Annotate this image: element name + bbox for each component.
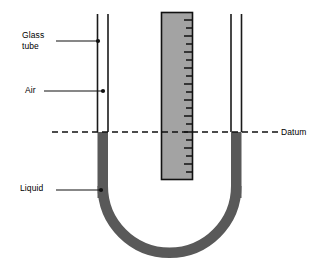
annotation-leaders [44, 39, 105, 192]
glass-tube-leader-dot [96, 39, 100, 43]
manometer-diagram-svg [0, 0, 319, 260]
liquid-u-bend [103, 186, 237, 253]
manometer-figure: Glass tube Air Liquid Datum [0, 0, 319, 260]
label-glass-tube: Glass tube [22, 30, 44, 51]
air-leader-dot [101, 89, 105, 93]
scale-body [162, 13, 193, 180]
label-datum: Datum [281, 127, 307, 138]
label-liquid: Liquid [20, 183, 43, 194]
liquid-leader-dot [99, 188, 103, 192]
label-air: Air [25, 85, 36, 96]
measuring-scale [162, 13, 193, 180]
